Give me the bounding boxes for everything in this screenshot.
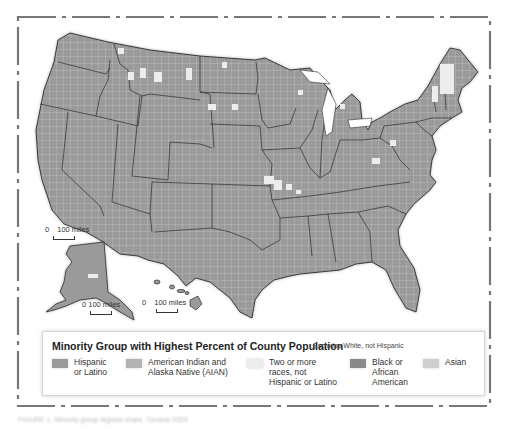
- legend-label: American Indian and Alaska Native (AIAN): [148, 357, 228, 377]
- scale-contiguous: 0 100 miles: [45, 225, 89, 234]
- scale-alaska: 0 100 miles: [82, 300, 120, 309]
- scale-bar: [156, 309, 178, 313]
- legend-label: Black or African American: [372, 357, 408, 387]
- legend-item-two-or-more: Two or more races, not Hispanic or Latin…: [247, 357, 337, 387]
- scale-bar: [53, 236, 75, 240]
- legend-item-asian: Asian: [423, 357, 466, 368]
- legend-label: Hispanic or Latino: [74, 357, 107, 377]
- legend-item-aian: American Indian and Alaska Native (AIAN): [126, 357, 228, 377]
- scale-zero: 0: [45, 225, 49, 234]
- swatch-two-or-more: [247, 359, 263, 368]
- swatch-black: [350, 359, 366, 368]
- swatch-aian: [126, 359, 142, 368]
- swatch-hispanic: [52, 359, 68, 368]
- map-legend: Minority Group with Highest Percent of C…: [42, 331, 485, 396]
- scale-zero: 0: [142, 298, 146, 307]
- legend-item-black: Black or African American: [350, 357, 408, 387]
- legend-subtitle: Excludes White, not Hispanic: [313, 342, 404, 349]
- figure-caption: FIGURE 1. Minority group highest share, …: [18, 416, 188, 423]
- legend-label: Asian: [445, 357, 466, 367]
- scale-dist: 100 miles: [154, 298, 186, 307]
- scale-dist: 100 miles: [88, 300, 120, 309]
- legend-label: Two or more races, not Hispanic or Latin…: [269, 357, 337, 387]
- scale-bar: [90, 311, 112, 315]
- scale-hawaii: 0 100 miles: [142, 298, 186, 307]
- scale-dist: 100 miles: [57, 225, 89, 234]
- legend-title: Minority Group with Highest Percent of C…: [52, 340, 343, 352]
- scale-zero: 0: [82, 300, 86, 309]
- swatch-asian: [423, 359, 439, 368]
- legend-item-hispanic: Hispanic or Latino: [52, 357, 107, 377]
